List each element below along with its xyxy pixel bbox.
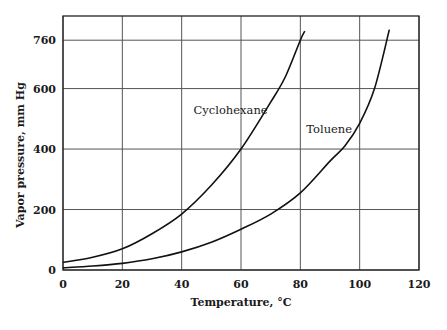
label-toluene: Toluene xyxy=(306,122,352,136)
x-tick-label: 0 xyxy=(59,278,67,291)
gridlines xyxy=(63,16,419,270)
x-tick-label: 40 xyxy=(174,278,190,291)
x-axis-ticks: 020406080100120 xyxy=(59,278,431,291)
x-tick-label: 60 xyxy=(233,278,249,291)
x-tick-label: 120 xyxy=(408,278,431,291)
y-tick-label: 0 xyxy=(48,264,56,277)
y-tick-label: 200 xyxy=(33,204,56,217)
y-tick-label: 600 xyxy=(33,83,56,96)
x-axis-label: Temperature, °C xyxy=(191,296,292,309)
vapor-pressure-chart: 020406080100120 0200400600760 Temperatur… xyxy=(0,0,447,330)
x-tick-label: 20 xyxy=(115,278,131,291)
x-tick-label: 100 xyxy=(348,278,371,291)
label-cyclohexane: Cyclohexane xyxy=(194,103,268,117)
y-tick-label: 400 xyxy=(33,143,56,156)
series-labels: CyclohexaneToluene xyxy=(194,103,353,137)
x-tick-label: 80 xyxy=(293,278,309,291)
y-axis-label: Vapor pressure, mm Hg xyxy=(14,82,27,229)
curve-cyclohexane xyxy=(63,31,305,262)
y-axis-ticks: 0200400600760 xyxy=(33,34,56,277)
y-tick-label: 760 xyxy=(33,34,56,47)
